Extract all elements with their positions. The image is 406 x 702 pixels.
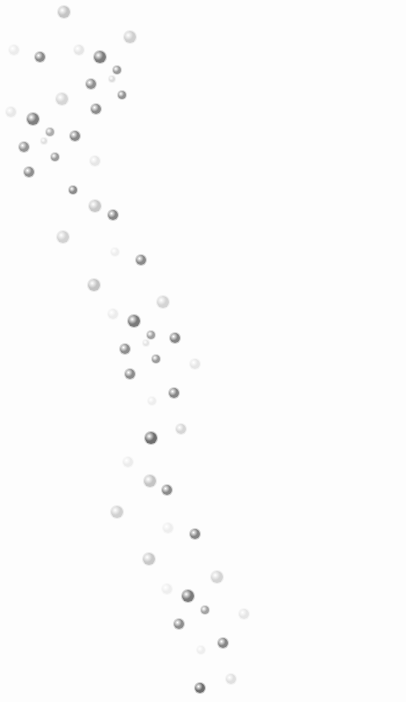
- droplet: [46, 128, 54, 136]
- droplet: [91, 104, 101, 114]
- droplet: [86, 79, 96, 89]
- droplet: [89, 200, 101, 212]
- droplet: [58, 6, 70, 18]
- droplet: [143, 340, 149, 346]
- droplet: [113, 66, 121, 74]
- droplet: [19, 142, 29, 152]
- droplet: [57, 231, 69, 243]
- droplet: [35, 52, 45, 62]
- droplet: [169, 388, 179, 398]
- droplet: [90, 156, 100, 166]
- droplet: [120, 344, 130, 354]
- droplet: [6, 107, 16, 117]
- droplet: [148, 397, 156, 405]
- droplet: [218, 638, 228, 648]
- droplet: [70, 131, 80, 141]
- droplet: [182, 590, 194, 602]
- droplet: [56, 93, 68, 105]
- droplet: [143, 553, 155, 565]
- droplet: [239, 609, 249, 619]
- droplet: [94, 51, 106, 63]
- droplet: [108, 309, 118, 319]
- droplet: [111, 506, 123, 518]
- droplet-photo: [0, 0, 406, 702]
- droplet: [128, 315, 140, 327]
- droplet: [162, 584, 172, 594]
- droplet: [163, 523, 173, 533]
- droplet: [41, 138, 47, 144]
- droplet: [145, 432, 157, 444]
- droplet: [170, 333, 180, 343]
- droplet: [176, 424, 186, 434]
- droplet: [69, 186, 77, 194]
- droplet: [123, 457, 133, 467]
- droplet: [109, 76, 115, 82]
- droplet: [136, 255, 146, 265]
- droplet: [111, 248, 119, 256]
- droplet: [118, 91, 126, 99]
- droplet: [190, 359, 200, 369]
- droplet: [27, 113, 39, 125]
- droplet: [157, 296, 169, 308]
- droplet: [195, 683, 205, 693]
- droplet: [108, 210, 118, 220]
- droplet: [24, 167, 34, 177]
- droplet: [226, 674, 236, 684]
- droplet: [74, 45, 84, 55]
- droplet: [162, 485, 172, 495]
- droplet: [125, 369, 135, 379]
- droplet: [9, 45, 19, 55]
- droplet: [197, 646, 205, 654]
- droplet: [51, 153, 59, 161]
- droplet: [190, 529, 200, 539]
- droplet: [152, 355, 160, 363]
- droplet: [88, 279, 100, 291]
- droplet: [124, 31, 136, 43]
- droplet: [174, 619, 184, 629]
- droplet: [211, 571, 223, 583]
- droplet: [201, 606, 209, 614]
- droplet: [144, 475, 156, 487]
- droplet: [147, 331, 155, 339]
